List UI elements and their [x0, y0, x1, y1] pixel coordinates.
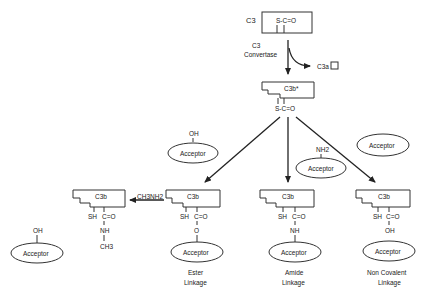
carbonyl-label: C=O: [386, 213, 400, 220]
ester-product: C3b SH C=O O Acceptor Ester Linkage: [166, 190, 223, 287]
sh-label: SH: [180, 213, 189, 220]
acceptor-group: NH2: [316, 146, 329, 153]
caption-line1: Ester: [188, 269, 204, 276]
link-label: NH: [290, 227, 300, 234]
free-acceptor-oh: OH Acceptor: [168, 130, 218, 163]
c3b-active-bond: S-C=O: [275, 105, 295, 112]
c3b-label: C3b: [95, 193, 107, 200]
reagent-label: CH3NH2: [137, 193, 163, 200]
c3-molecule: C3 S-C=O: [246, 12, 312, 33]
caption-line2: Linkage: [184, 279, 207, 287]
arrow-to-noncovalent: [296, 117, 375, 182]
convertase-line1: C3: [252, 42, 261, 49]
acceptor-label: Acceptor: [308, 165, 334, 173]
convertase-step: C3 Convertase C3a: [244, 40, 338, 74]
amide-product: C3b SH C=O NH Acceptor Amide Linkage: [260, 190, 321, 287]
c3-binding-diagram: C3 S-C=O C3 Convertase C3a C3b* S-C=O OH…: [0, 0, 424, 302]
caption-line1: Amide: [285, 269, 304, 276]
sh-label: SH: [88, 213, 97, 220]
c3a-square-icon: [331, 62, 338, 69]
link-label: NH: [100, 227, 110, 234]
caption-line2: Linkage: [378, 279, 401, 287]
carbonyl-label: C=O: [194, 213, 208, 220]
free-acceptor-oh-2: OH Acceptor: [11, 227, 63, 263]
acceptor-label: Acceptor: [281, 249, 307, 257]
link-label: O: [194, 227, 199, 234]
c3-bond: S-C=O: [276, 17, 296, 24]
carbonyl-label: C=O: [292, 213, 306, 220]
carbonyl-label: C=O: [102, 213, 116, 220]
acceptor-label: Acceptor: [183, 249, 209, 257]
free-acceptor-nh2: NH2 Acceptor: [296, 146, 346, 178]
c3b-label: C3b: [282, 193, 294, 200]
acceptor-label: Acceptor: [375, 248, 401, 256]
sh-label: SH: [278, 213, 287, 220]
acceptor-group: OH: [189, 130, 199, 137]
c3b-label: C3b: [187, 193, 199, 200]
acceptor-group: OH: [33, 227, 43, 234]
c3b-active-label: C3b*: [284, 85, 299, 92]
free-acceptor-plain: Acceptor: [357, 134, 409, 156]
c3b-active: C3b* S-C=O: [262, 82, 314, 112]
acceptor-label: Acceptor: [23, 250, 49, 258]
curved-arrow-icon: [289, 48, 310, 66]
sh-label: SH: [373, 213, 382, 220]
acceptor-label: Acceptor: [180, 150, 206, 158]
terminal-label: CH3: [100, 243, 113, 250]
methylamine-product: CH3NH2 C3b SH C=O NH CH3: [73, 190, 164, 250]
c3b-label: C3b: [378, 193, 390, 200]
link-label: OH: [385, 227, 395, 234]
acceptor-label: Acceptor: [369, 142, 395, 150]
caption-line2: Linkage: [282, 279, 305, 287]
caption-line1: Non Covalent: [367, 269, 407, 276]
c3a-label: C3a: [317, 63, 329, 70]
c3-label: C3: [246, 16, 256, 25]
convertase-line2: Convertase: [244, 51, 278, 58]
noncovalent-product: C3b SH C=O OH Acceptor Non Covalent Link…: [356, 190, 415, 287]
